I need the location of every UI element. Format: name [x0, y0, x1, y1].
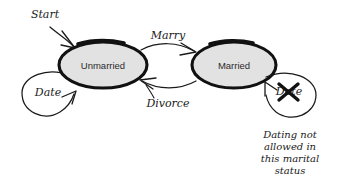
transition-divorce: Divorce [140, 78, 196, 110]
dating-not-allowed-note: Dating not allowed in this marital statu… [261, 129, 320, 176]
annotation-line-3: this marital [261, 153, 320, 164]
state-unmarried-label: Unmarried [81, 60, 125, 71]
marry-arrow-line [141, 44, 194, 51]
transition-date-married: Date [265, 73, 316, 117]
transition-label-start: Start [31, 8, 60, 21]
transition-label-divorce: Divorce [145, 97, 190, 110]
state-machine-diagram: Start Date Marry Divorce Unmarried [0, 0, 339, 188]
marry-arrowhead [180, 43, 196, 55]
transition-label-marry: Marry [150, 29, 186, 42]
annotation-line-2: allowed in [264, 141, 316, 152]
annotation-line-4: status [275, 165, 306, 176]
start-arrowhead [61, 31, 75, 48]
state-married[interactable]: Married [192, 41, 276, 88]
transition-label-date-unmarried: Date [34, 86, 62, 99]
transition-start: Start [31, 8, 75, 48]
annotation-line-1: Dating not [262, 129, 318, 140]
start-arrow-line [50, 27, 74, 47]
transition-marry: Marry [141, 29, 196, 55]
date-unmarried-arrowhead [62, 91, 76, 104]
diagram-canvas: Start Date Marry Divorce Unmarried [0, 0, 339, 188]
state-married-label: Married [218, 60, 250, 71]
state-unmarried[interactable]: Unmarried [59, 41, 147, 88]
